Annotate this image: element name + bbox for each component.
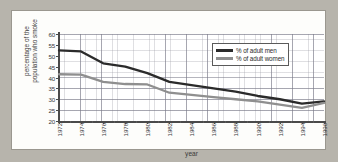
x-tick-minor-mark — [158, 121, 159, 123]
x-tick-mark — [324, 121, 325, 124]
x-tick-label: 1992 — [277, 123, 284, 136]
y-tick-mark — [56, 99, 59, 100]
x-tick-label: 1990 — [255, 123, 262, 136]
x-tick-minor-mark — [225, 121, 226, 123]
x-tick-label: 1982 — [166, 123, 173, 136]
x-tick-label: 1972 — [56, 123, 63, 136]
legend-label-women: % of adult women — [236, 55, 284, 62]
x-tick-label: 1994 — [299, 123, 306, 136]
x-tick-mark — [236, 121, 237, 124]
x-tick-label: 1980 — [144, 123, 151, 136]
series-line-women — [59, 74, 324, 108]
x-tick-mark — [258, 121, 259, 124]
x-tick-label: 1986 — [210, 123, 217, 136]
legend-swatch-women — [216, 57, 233, 59]
x-tick-minor-mark — [203, 121, 204, 123]
chart-screenshot: 605550454035302520 197219741976197819801… — [0, 0, 338, 162]
x-tick-mark — [192, 121, 193, 124]
chart-legend: % of adult men % of adult women — [212, 43, 289, 66]
x-tick-label: 1988 — [232, 123, 239, 136]
x-tick-mark — [169, 121, 170, 124]
x-tick-mark — [81, 121, 82, 124]
x-axis-label: year — [59, 150, 324, 157]
x-tick-minor-mark — [114, 121, 115, 123]
x-tick-minor-mark — [92, 121, 93, 123]
y-tick-label: 35 — [48, 85, 55, 92]
chart-panel: 605550454035302520 197219741976197819801… — [11, 10, 326, 150]
legend-swatch-men — [216, 49, 233, 51]
x-tick-minor-mark — [70, 121, 71, 123]
y-axis-label: percentage of the population who smoke — [23, 15, 39, 87]
x-tick-label: 1974 — [78, 123, 85, 136]
x-tick-minor-mark — [180, 121, 181, 123]
y-tick-label: 45 — [48, 63, 55, 70]
x-tick-label: 1978 — [122, 123, 129, 136]
y-tick-mark — [56, 56, 59, 57]
x-axis-ticks: 1972197419761978198019821984198619881990… — [59, 123, 324, 149]
x-tick-mark — [125, 121, 126, 124]
y-tick-mark — [56, 45, 59, 46]
x-tick-mark — [214, 121, 215, 124]
y-tick-label: 55 — [48, 41, 55, 48]
legend-item-men: % of adult men — [216, 47, 284, 55]
x-tick-minor-mark — [291, 121, 292, 123]
y-tick-label: 25 — [48, 107, 55, 114]
x-tick-label: 1996 — [321, 123, 328, 136]
y-tick-label: 40 — [48, 74, 55, 81]
x-tick-label: 1976 — [100, 123, 107, 136]
x-tick-mark — [59, 121, 60, 124]
x-tick-minor-mark — [313, 121, 314, 123]
x-tick-mark — [302, 121, 303, 124]
y-tick-label: 50 — [48, 52, 55, 59]
x-tick-mark — [147, 121, 148, 124]
y-axis-label-line2: population who smoke — [31, 15, 39, 87]
y-axis-label-line1: percentage of the — [23, 15, 31, 87]
x-tick-mark — [280, 121, 281, 124]
x-tick-label: 1984 — [188, 123, 195, 136]
y-tick-mark — [56, 88, 59, 89]
y-tick-label: 20 — [48, 118, 55, 125]
y-axis-ticks: 605550454035302520 — [40, 34, 55, 121]
x-tick-minor-mark — [247, 121, 248, 123]
y-tick-mark — [56, 67, 59, 68]
x-tick-minor-mark — [269, 121, 270, 123]
y-tick-mark — [56, 34, 59, 35]
y-tick-mark — [56, 78, 59, 79]
y-tick-mark — [56, 110, 59, 111]
x-tick-minor-mark — [136, 121, 137, 123]
y-tick-label: 30 — [48, 96, 55, 103]
legend-item-women: % of adult women — [216, 55, 284, 63]
legend-label-men: % of adult men — [236, 47, 277, 54]
x-tick-mark — [103, 121, 104, 124]
y-tick-label: 60 — [48, 31, 55, 38]
